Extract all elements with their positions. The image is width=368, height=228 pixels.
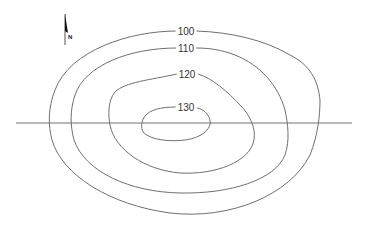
north-arrow-icon: [65, 14, 68, 45]
contour-label-130: 130: [176, 102, 197, 113]
north-label: N: [68, 34, 72, 40]
contour-120: [109, 74, 255, 173]
contour-label-110: 110: [176, 43, 196, 54]
contour-label-100: 100: [176, 26, 197, 37]
contour-label-120: 120: [177, 69, 198, 80]
